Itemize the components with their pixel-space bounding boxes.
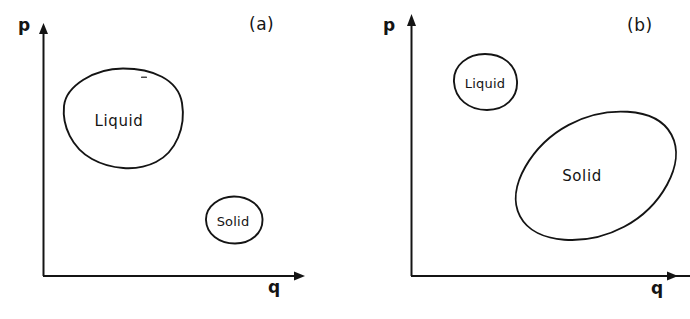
y-axis-arrowhead [39,23,48,34]
liquid-region-label-a: Liquid [95,114,144,129]
y-axis-label: p [383,17,395,34]
x-axis-label: q [651,280,663,297]
liquid-region-label-b: Liquid [465,77,505,90]
x-axis-arrowhead [294,272,305,281]
phase-diagram-figure: p q (a) Liquid Solid p q (b) Liquid Soli… [0,0,690,319]
x-axis-label: q [268,279,280,296]
panel-tag-b: (b) [627,17,653,34]
panel-b-canvas [345,0,690,319]
y-axis-label: p [18,17,30,34]
panel-a: p q (a) Liquid Solid [0,0,345,319]
x-axis-arrowhead [667,272,678,281]
panel-a-canvas [0,0,345,319]
panel-tag-a: (a) [249,16,274,33]
y-axis-arrowhead [407,14,416,26]
panel-b: p q (b) Liquid Solid [345,0,690,319]
solid-region-label-b: Solid [562,169,602,184]
solid-region-label-a: Solid [217,215,250,228]
scan-artifact-mark [141,77,147,79]
